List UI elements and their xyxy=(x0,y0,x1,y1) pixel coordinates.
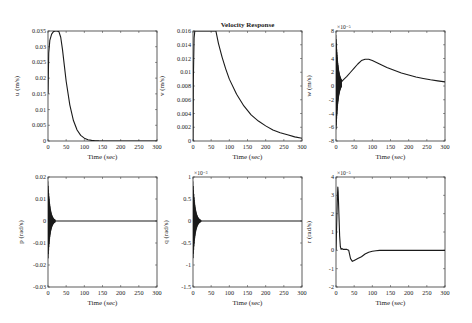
y-axis-label: q (rad/s) xyxy=(162,220,170,244)
y-tick-label: -0.03 xyxy=(33,283,46,290)
axis-exponent: ×10⁻⁵ xyxy=(337,24,351,30)
y-axis-label: p (rad/s) xyxy=(17,220,25,244)
x-tick-label: 200 xyxy=(261,289,270,296)
y-tick-label: -1.5 xyxy=(181,283,191,290)
x-tick-label: 100 xyxy=(225,143,234,150)
y-tick-label: -0.01 xyxy=(33,239,46,246)
y-tick-label: 0.01 xyxy=(35,195,46,202)
x-axis-label: Time (sec) xyxy=(88,299,119,307)
x-tick-label: 100 xyxy=(368,289,377,296)
axes-frame xyxy=(336,31,445,141)
y-tick-label: 1 xyxy=(331,228,334,235)
y-tick-label: 0 xyxy=(43,137,46,144)
figure: Velocity Response 05010015020025030000.0… xyxy=(0,0,472,323)
x-tick-label: 200 xyxy=(261,143,270,150)
y-tick-label: 0.005 xyxy=(32,121,46,128)
y-tick-label: 0 xyxy=(331,82,334,89)
x-axis-label: Time (sec) xyxy=(376,299,407,307)
axes-frame xyxy=(48,31,157,141)
y-tick-label: -8 xyxy=(329,137,334,144)
x-tick-label: 150 xyxy=(98,289,107,296)
x-tick-label: 250 xyxy=(422,289,431,296)
y-tick-label: -2 xyxy=(329,283,334,290)
y-tick-label: 0.02 xyxy=(35,173,46,180)
axes-frame xyxy=(193,177,302,287)
y-axis-label: v (m/s) xyxy=(158,75,166,96)
x-tick-label: 150 xyxy=(243,289,252,296)
x-tick-label: 50 xyxy=(351,143,357,150)
x-tick-label: 250 xyxy=(279,289,288,296)
y-tick-label: 0.03 xyxy=(35,43,46,50)
x-axis-label: Time (sec) xyxy=(376,153,407,161)
x-tick-label: 200 xyxy=(116,289,125,296)
axis-exponent: ×10⁻³ xyxy=(194,170,208,176)
x-tick-label: 0 xyxy=(46,289,49,296)
y-tick-label: 8 xyxy=(331,27,334,34)
x-tick-label: 50 xyxy=(63,289,69,296)
y-tick-label: 0 xyxy=(43,217,46,224)
x-tick-label: 250 xyxy=(134,289,143,296)
x-tick-label: 150 xyxy=(98,143,107,150)
x-tick-label: 250 xyxy=(422,143,431,150)
y-tick-label: 0.002 xyxy=(177,123,191,130)
x-tick-label: 150 xyxy=(386,143,395,150)
y-axis-label: u (m/s) xyxy=(13,75,21,96)
x-tick-label: 100 xyxy=(80,289,89,296)
x-axis-label: Time (sec) xyxy=(88,153,119,161)
x-tick-label: 50 xyxy=(351,289,357,296)
x-tick-label: 300 xyxy=(297,143,306,150)
y-tick-label: -0.02 xyxy=(33,261,46,268)
x-tick-label: 50 xyxy=(208,143,214,150)
y-tick-label: 0.01 xyxy=(180,68,191,75)
subplot-w: 050100150200250300-8-6-4-202468×10⁻⁵Time… xyxy=(305,24,450,161)
y-tick-label: 0.004 xyxy=(177,110,191,117)
y-tick-label: 0 xyxy=(188,137,191,144)
x-tick-label: 300 xyxy=(152,289,161,296)
x-tick-label: 50 xyxy=(208,289,214,296)
x-tick-label: 200 xyxy=(404,143,413,150)
x-tick-label: 250 xyxy=(134,143,143,150)
subplot-r: 050100150200250300-2-101234×10⁻⁵Time (se… xyxy=(305,170,450,307)
y-tick-label: 0 xyxy=(331,246,334,253)
x-tick-label: 0 xyxy=(191,289,194,296)
y-tick-label: 0.006 xyxy=(177,96,191,103)
x-tick-label: 100 xyxy=(225,289,234,296)
x-tick-label: 250 xyxy=(279,143,288,150)
x-tick-label: 150 xyxy=(386,289,395,296)
y-tick-label: 3 xyxy=(331,191,334,198)
y-tick-label: 6 xyxy=(331,41,334,48)
subplot-v: 05010015020025030000.0020.0040.0060.0080… xyxy=(158,21,307,161)
x-tick-label: 100 xyxy=(368,143,377,150)
axis-exponent: ×10⁻⁵ xyxy=(337,170,351,176)
x-tick-label: 50 xyxy=(63,143,69,150)
axes-frame xyxy=(48,177,157,287)
x-axis-label: Time (sec) xyxy=(233,299,264,307)
x-tick-label: 100 xyxy=(80,143,89,150)
y-axis-label: r (rad/s) xyxy=(305,220,313,243)
subplot-q: 050100150200250300-1.5-1-0.500.51×10⁻³Ti… xyxy=(162,170,307,307)
y-tick-label: 0.025 xyxy=(32,58,46,65)
axes-frame xyxy=(336,177,445,287)
x-tick-label: 300 xyxy=(440,289,449,296)
y-tick-label: -0.5 xyxy=(181,239,191,246)
y-axis-label: w (m/s) xyxy=(305,75,313,97)
y-tick-label: -1 xyxy=(329,265,334,272)
y-tick-label: 0.5 xyxy=(183,195,191,202)
x-tick-label: 200 xyxy=(116,143,125,150)
subplot-grid: 05010015020025030000.0050.010.0150.020.0… xyxy=(0,0,472,323)
y-tick-label: 0.012 xyxy=(177,55,191,62)
y-tick-label: 0 xyxy=(188,217,191,224)
y-tick-label: 0.02 xyxy=(35,74,46,81)
axes-frame xyxy=(193,31,302,141)
x-tick-label: 0 xyxy=(46,143,49,150)
y-tick-label: 0.008 xyxy=(177,82,191,89)
y-tick-label: 4 xyxy=(331,173,334,180)
x-tick-label: 300 xyxy=(297,289,306,296)
y-tick-label: 0.016 xyxy=(177,27,191,34)
x-tick-label: 0 xyxy=(334,289,337,296)
y-tick-label: 4 xyxy=(331,55,334,62)
x-tick-label: 0 xyxy=(334,143,337,150)
y-tick-label: 2 xyxy=(331,210,334,217)
y-tick-label: 0.035 xyxy=(32,27,46,34)
y-tick-label: 1 xyxy=(188,173,191,180)
